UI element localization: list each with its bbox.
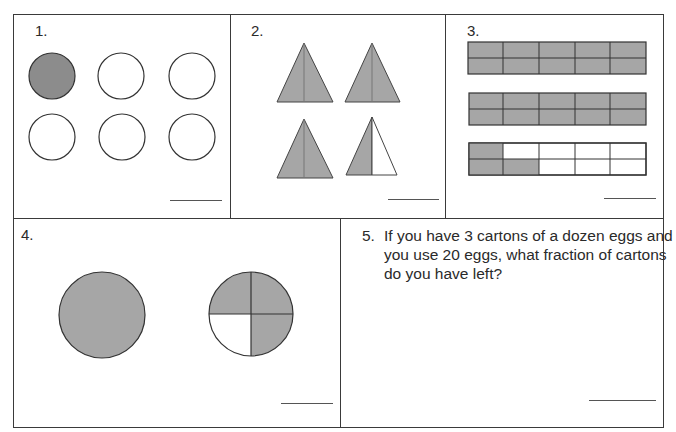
- problem-5-number: 5.: [362, 226, 375, 245]
- quartered-circle: [209, 272, 293, 356]
- fraction-worksheet: 1. 2. 3.: [0, 0, 676, 432]
- answer-line-5[interactable]: [589, 400, 656, 401]
- answer-line-4[interactable]: [281, 403, 333, 404]
- whole-shaded-circle: [59, 272, 145, 358]
- problem-5-question: If you have 3 cartons of a dozen eggs an…: [384, 226, 674, 283]
